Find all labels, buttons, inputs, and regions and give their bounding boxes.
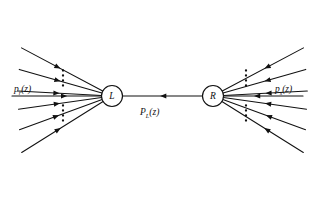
right-upper-dots-dot-2 [245,79,247,81]
ray-arrow-right-3 [265,102,271,107]
ray-arrow-right-2 [265,90,271,95]
vertex-label-R: R [209,91,216,101]
right-lower-dots-dot-1 [245,109,247,111]
ray-arrow-right-1 [264,77,271,82]
ray-line-right-5 [222,102,303,153]
ray-arrow-left-2 [53,90,59,95]
ray-bundles [18,48,308,153]
center-propagator-label: PL(z) [139,107,159,119]
left-lower-dots-dot-2 [62,114,64,116]
ray-arrow-left-5 [54,128,61,133]
ray-line-left-5 [22,102,103,153]
left-lower-dots-dot-0 [62,104,64,106]
left-momentum-label: pr(z) [13,84,31,96]
right-lower-dots-dot-0 [245,104,247,106]
ray-line-left-4 [19,100,102,130]
right-momentum-label: ps(z) [274,84,292,96]
right-lower-dots-dot-2 [245,114,247,116]
ray-line-left-0 [21,48,102,91]
center-propagator-label-text: PL(z) [139,107,159,119]
right-upper-dots-dot-0 [245,69,247,71]
vertex-label-L: L [108,91,114,101]
left-incoming-arrow [61,94,67,99]
left-lower-dots-dot-1 [62,109,64,111]
center-propagator-arrow [160,94,166,99]
diagram-svg: LR pr(z)ps(z)PL(z) [0,0,315,203]
left-lower-dots-dot-3 [62,119,64,121]
right-upper-dots-dot-1 [245,74,247,76]
right-momentum-label-text: ps(z) [274,84,292,96]
left-momentum-label-text: pr(z) [13,84,31,96]
ray-arrow-left-3 [54,102,60,107]
ray-arrow-left-1 [54,77,61,82]
ray-arrow-left-4 [52,115,59,120]
left-upper-dots-dot-3 [62,84,64,86]
ray-arrow-right-0 [265,63,272,68]
left-upper-dots-dot-0 [62,69,64,71]
left-upper-dots-dot-1 [62,74,64,76]
ray-arrow-right-4 [266,115,273,120]
right-upper-dots-dot-3 [245,84,247,86]
ray-line-right-4 [223,100,306,130]
right-lower-dots-dot-3 [245,119,247,121]
ray-arrow-left-0 [54,63,61,68]
left-upper-dots-dot-2 [62,79,64,81]
ray-arrow-right-5 [264,128,271,133]
physics-diagram-canvas: LR pr(z)ps(z)PL(z) [0,0,315,203]
